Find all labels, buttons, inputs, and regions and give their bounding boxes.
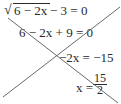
strike-line-2 [8, 18, 118, 103]
strike-line-1 [3, 7, 120, 97]
strike-lines [0, 0, 121, 104]
